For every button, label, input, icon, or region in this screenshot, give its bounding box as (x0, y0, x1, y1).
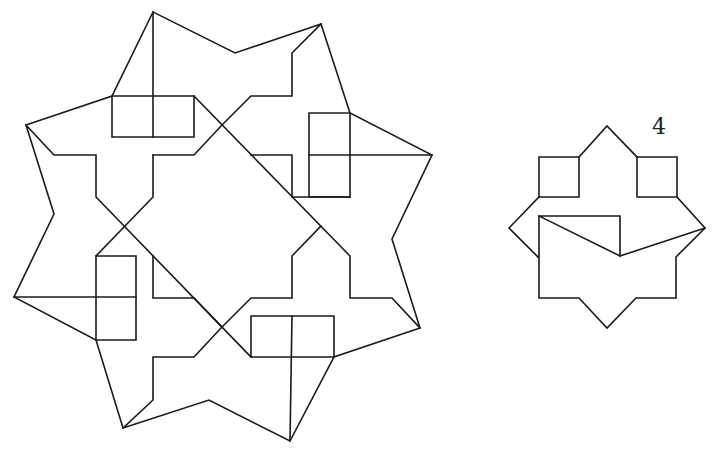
small-star-figure (509, 126, 705, 328)
figure-label-4: 4 (652, 116, 666, 138)
small-star-figure-segment (637, 157, 677, 197)
eight-point-star-with-rectangles-segment (153, 24, 321, 155)
eight-point-star-with-rectangles-segment (14, 12, 432, 441)
small-star-figure-segment (579, 126, 637, 157)
small-star-figure-segment (539, 216, 620, 256)
eight-point-star-with-rectangles-segment (290, 316, 292, 441)
small-star-figure-segment (539, 157, 579, 197)
small-star-figure-segment (620, 228, 705, 256)
large-eight-point-star (14, 12, 432, 441)
eight-point-star-with-rectangles-segment (96, 256, 136, 340)
diagram-canvas (0, 0, 712, 462)
eight-point-star-with-rectangles-segment (251, 155, 350, 197)
small-star-figure-segment (509, 197, 539, 257)
